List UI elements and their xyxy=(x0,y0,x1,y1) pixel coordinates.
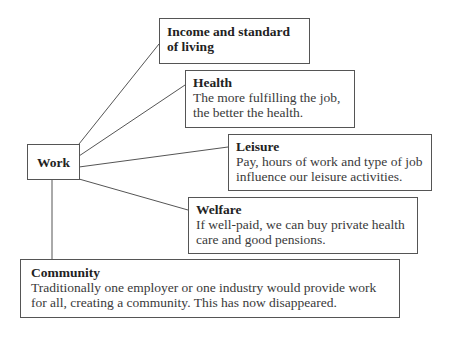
leisure-node: Leisure Pay, hours of work and type of j… xyxy=(228,134,432,191)
leisure-description: Pay, hours of work and type of job influ… xyxy=(236,154,424,184)
edge-work-leisure xyxy=(79,147,228,167)
health-node: Health The more fulfilling the job, the … xyxy=(185,70,355,128)
health-title: Health xyxy=(193,75,347,90)
community-description: Traditionally one employer or one indust… xyxy=(31,280,389,310)
edge-work-welfare xyxy=(79,179,188,210)
work-label: Work xyxy=(37,155,70,170)
income-title: Income and standard of living xyxy=(167,24,297,54)
community-node: Community Traditionally one employer or … xyxy=(20,259,400,318)
work-node: Work xyxy=(27,144,80,180)
edge-work-health xyxy=(79,85,185,156)
health-description: The more fulfilling the job, the better … xyxy=(193,90,347,120)
welfare-title: Welfare xyxy=(196,202,410,217)
income-node: Income and standard of living xyxy=(159,18,310,64)
welfare-description: If well-paid, we can buy private health … xyxy=(196,217,410,247)
community-title: Community xyxy=(31,265,389,280)
leisure-title: Leisure xyxy=(236,139,424,154)
welfare-node: Welfare If well-paid, we can buy private… xyxy=(188,197,418,254)
